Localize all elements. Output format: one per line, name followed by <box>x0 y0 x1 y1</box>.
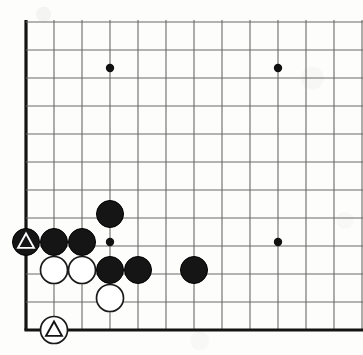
go-board-canvas[interactable] <box>0 0 363 355</box>
black-stone-c2[interactable] <box>69 229 96 256</box>
star-point-4 <box>106 238 114 246</box>
go-board-diagram <box>0 0 363 355</box>
white-stone-disc <box>41 257 68 284</box>
black-stone-marked-left-edge[interactable] <box>13 229 40 256</box>
white-stone-disc <box>69 257 96 284</box>
star-point-2 <box>274 64 282 72</box>
white-stone-marked-bottom-edge[interactable] <box>41 317 68 344</box>
white-stone-c1[interactable] <box>69 257 96 284</box>
black-stone-disc <box>97 201 124 228</box>
star-point-1 <box>106 64 114 72</box>
white-stone-b1[interactable] <box>41 257 68 284</box>
black-stone-e1[interactable] <box>125 257 152 284</box>
black-stone-disc <box>41 229 68 256</box>
black-stone-disc <box>97 257 124 284</box>
black-stone-g1[interactable] <box>181 257 208 284</box>
white-stone-d0[interactable] <box>97 285 124 312</box>
black-stone-b2[interactable] <box>41 229 68 256</box>
white-stone-disc <box>97 285 124 312</box>
black-stone-d1[interactable] <box>97 257 124 284</box>
black-stone-disc <box>181 257 208 284</box>
black-stone-disc <box>69 229 96 256</box>
black-stone-disc <box>125 257 152 284</box>
black-stone-d3[interactable] <box>97 201 124 228</box>
star-point-3 <box>274 238 282 246</box>
